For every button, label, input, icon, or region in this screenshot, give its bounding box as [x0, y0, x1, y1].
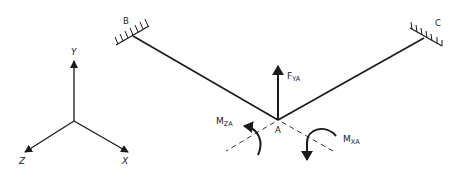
- moment-za-arrow-icon: [244, 126, 260, 155]
- force-fya: FYA: [278, 66, 301, 120]
- x-axis-label: X: [121, 156, 129, 166]
- member-ab: [133, 36, 278, 120]
- moment-mxa: MXA: [307, 129, 360, 160]
- z-axis-label: Z: [18, 156, 26, 166]
- support-b: B: [115, 16, 149, 45]
- moment-xa-label: MXA: [343, 134, 360, 146]
- diagram-canvas: Y Z X B: [0, 0, 462, 177]
- x-axis-arrow: [74, 121, 128, 152]
- support-c-label: C: [435, 18, 441, 28]
- support-b-label: B: [123, 16, 129, 26]
- y-axis-label: Y: [71, 47, 78, 57]
- force-label: FYA: [287, 71, 301, 83]
- support-b-hatch-icon: [115, 19, 148, 44]
- moment-za-label: MZA: [216, 116, 233, 128]
- support-c: C: [410, 18, 442, 46]
- frame-diagram: Y Z X B: [0, 0, 462, 177]
- joint-a-label: A: [275, 125, 281, 135]
- z-axis-arrow: [25, 121, 74, 152]
- coordinate-axes: Y Z X: [18, 47, 129, 166]
- moment-mza: MZA: [216, 116, 260, 155]
